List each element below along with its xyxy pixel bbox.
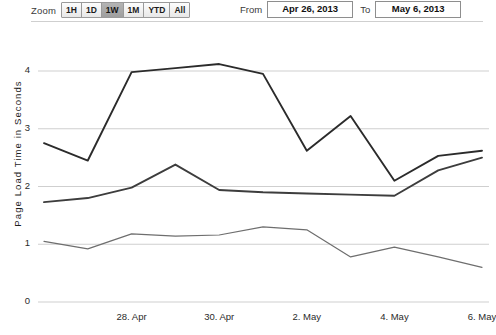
zoom-button-ytd[interactable]: YTD xyxy=(144,3,170,17)
zoom-button-group: 1H 1D 1W 1M YTD All xyxy=(61,2,190,18)
date-range-group: From Apr 26, 2013 To May 6, 2013 xyxy=(240,1,461,18)
series-line-1[interactable] xyxy=(44,64,482,181)
chart-area: Page Load Time in Seconds 01234 28. Apr3… xyxy=(0,28,489,335)
zoom-control-group: Zoom 1H 1D 1W 1M YTD All xyxy=(31,2,190,18)
chart-toolbar: Zoom 1H 1D 1W 1M YTD All From Apr 26, 20… xyxy=(0,0,489,20)
series-line-2[interactable] xyxy=(44,158,482,202)
zoom-button-1m[interactable]: 1M xyxy=(124,3,145,17)
to-label: To xyxy=(360,4,370,15)
to-date-input[interactable]: May 6, 2013 xyxy=(375,1,461,18)
zoom-label: Zoom xyxy=(31,5,56,16)
series-line-3[interactable] xyxy=(44,227,482,267)
zoom-button-1d[interactable]: 1D xyxy=(82,3,102,17)
plot-svg[interactable] xyxy=(0,28,489,335)
zoom-button-1h[interactable]: 1H xyxy=(62,3,82,17)
toolbar-separator xyxy=(31,21,483,22)
zoom-button-1w[interactable]: 1W xyxy=(102,3,124,17)
from-date-input[interactable]: Apr 26, 2013 xyxy=(267,1,353,18)
gridlines xyxy=(38,71,489,302)
from-label: From xyxy=(240,4,262,15)
series-paths xyxy=(44,64,482,267)
zoom-button-all[interactable]: All xyxy=(170,3,189,17)
